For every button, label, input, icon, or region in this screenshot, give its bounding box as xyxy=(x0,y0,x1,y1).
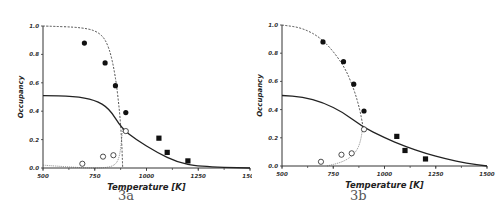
chart-panel-3a: 0.00.20.40.60.81.0500750100012501500Temp… xyxy=(0,0,252,212)
x-tick-label: 500 xyxy=(276,171,288,177)
y-axis-label: Occupancy xyxy=(17,75,25,118)
x-tick-label: 1250 xyxy=(428,171,443,177)
y-tick-label: 0.4 xyxy=(29,108,39,114)
caption-3b: 3b xyxy=(350,188,367,203)
x-tick-label: 750 xyxy=(328,171,340,177)
y-tick-label: 1.0 xyxy=(29,23,39,29)
y-tick-label: 0.0 xyxy=(29,165,39,171)
x-tick-label: 1250 xyxy=(191,173,206,179)
y-axis-label: Occupancy xyxy=(256,74,264,117)
x-tick-label: 1000 xyxy=(139,173,154,179)
y-tick-label: 0.4 xyxy=(268,107,278,113)
x-tick-label: 500 xyxy=(37,173,49,179)
y-tick-label: 0.0 xyxy=(268,163,278,169)
chart-panel-3b: 0.00.20.40.60.81.0500750100012501500Temp… xyxy=(252,0,504,212)
y-tick-label: 0.8 xyxy=(29,51,39,57)
y-tick-label: 0.2 xyxy=(268,135,278,141)
solid-curve xyxy=(43,96,250,168)
y-tick-label: 0.6 xyxy=(268,78,278,84)
dashed-curve xyxy=(43,26,123,168)
y-tick-label: 0.2 xyxy=(29,137,39,143)
chart-3a-plot: 0.00.20.40.60.81.0500750100012501500Temp… xyxy=(0,0,252,212)
filled-squares-markers xyxy=(156,136,190,164)
solid-curve xyxy=(282,96,487,167)
y-tick-label: 0.6 xyxy=(29,80,39,86)
filled-circles-markers xyxy=(82,40,129,115)
axes: 0.00.20.40.60.81.0500750100012501500Temp… xyxy=(256,22,495,190)
dotted-lower-curve xyxy=(327,127,363,166)
x-tick-label: 1500 xyxy=(242,173,252,179)
open-circles-markers xyxy=(318,127,366,165)
x-tick-label: 1000 xyxy=(377,171,392,177)
y-tick-label: 0.8 xyxy=(268,50,278,56)
x-tick-label: 750 xyxy=(89,173,101,179)
y-tick-label: 1.0 xyxy=(268,22,278,28)
chart-3b-plot: 0.00.20.40.60.81.0500750100012501500Temp… xyxy=(252,0,504,212)
caption-3a: 3a xyxy=(118,188,134,203)
x-tick-label: 1500 xyxy=(479,171,494,177)
filled-circles-markers xyxy=(320,39,366,113)
